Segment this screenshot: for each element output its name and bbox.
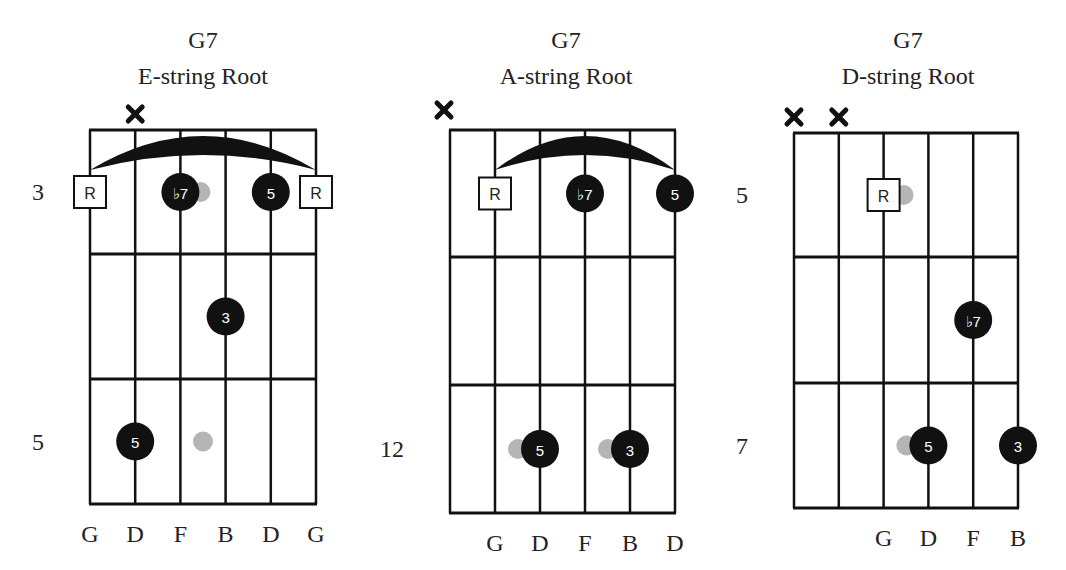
string-name: G bbox=[81, 521, 98, 547]
fret-number: 5 bbox=[736, 182, 748, 208]
fret-number: 12 bbox=[380, 436, 404, 462]
muted-string-x-icon bbox=[437, 103, 451, 117]
ghost-note-dot bbox=[193, 432, 213, 452]
muted-string-x-icon bbox=[832, 110, 846, 124]
chord-subtitle: A-string Root bbox=[500, 63, 633, 89]
note-interval-label: 5 bbox=[131, 434, 139, 451]
fret-number: 7 bbox=[736, 433, 748, 459]
root-note-label: R bbox=[489, 186, 501, 203]
string-name: D bbox=[127, 521, 144, 547]
fret-number: 3 bbox=[32, 179, 44, 205]
string-name: B bbox=[218, 521, 234, 547]
root-note-label: R bbox=[878, 188, 890, 205]
barre-arc bbox=[90, 136, 316, 170]
string-name: D bbox=[920, 525, 937, 551]
chord-diagrams: G7E-string Root35GDFBDGR♭75R35G7A-string… bbox=[0, 0, 1066, 570]
root-note-label: R bbox=[310, 185, 322, 202]
chord-subtitle: E-string Root bbox=[138, 63, 268, 89]
string-name: F bbox=[967, 525, 980, 551]
muted-string-x-icon bbox=[128, 107, 142, 121]
string-name: G bbox=[307, 521, 324, 547]
chord-title: G7 bbox=[551, 27, 580, 53]
string-name: B bbox=[622, 530, 638, 556]
string-name: D bbox=[262, 521, 279, 547]
root-note-label: R bbox=[84, 185, 96, 202]
muted-string-x-icon bbox=[787, 110, 801, 124]
note-interval-label: ♭7 bbox=[966, 313, 981, 330]
note-interval-label: 5 bbox=[267, 185, 275, 202]
fret-number: 5 bbox=[32, 429, 44, 455]
chord-diagram-d-string-root: G7D-string Root57GDFBR♭753 bbox=[736, 27, 1037, 551]
note-interval-label: 3 bbox=[626, 442, 634, 459]
string-name: G bbox=[486, 530, 503, 556]
note-interval-label: 3 bbox=[221, 309, 229, 326]
note-interval-label: 5 bbox=[924, 438, 932, 455]
chord-subtitle: D-string Root bbox=[842, 63, 975, 89]
string-name: G bbox=[875, 525, 892, 551]
chord-diagram-a-string-root: G7A-string Root12GDFBDR♭7553 bbox=[380, 27, 694, 556]
chord-title: G7 bbox=[188, 27, 217, 53]
string-name: B bbox=[1010, 525, 1026, 551]
string-name: D bbox=[666, 530, 683, 556]
note-interval-label: ♭7 bbox=[173, 185, 188, 202]
string-name: F bbox=[578, 530, 591, 556]
note-interval-label: 5 bbox=[536, 442, 544, 459]
chord-diagram-e-string-root: G7E-string Root35GDFBDGR♭75R35 bbox=[32, 27, 332, 547]
string-name: D bbox=[531, 530, 548, 556]
note-interval-label: 3 bbox=[1014, 438, 1022, 455]
string-name: F bbox=[174, 521, 187, 547]
note-interval-label: 5 bbox=[671, 186, 679, 203]
chord-title: G7 bbox=[893, 27, 922, 53]
note-interval-label: ♭7 bbox=[577, 186, 592, 203]
